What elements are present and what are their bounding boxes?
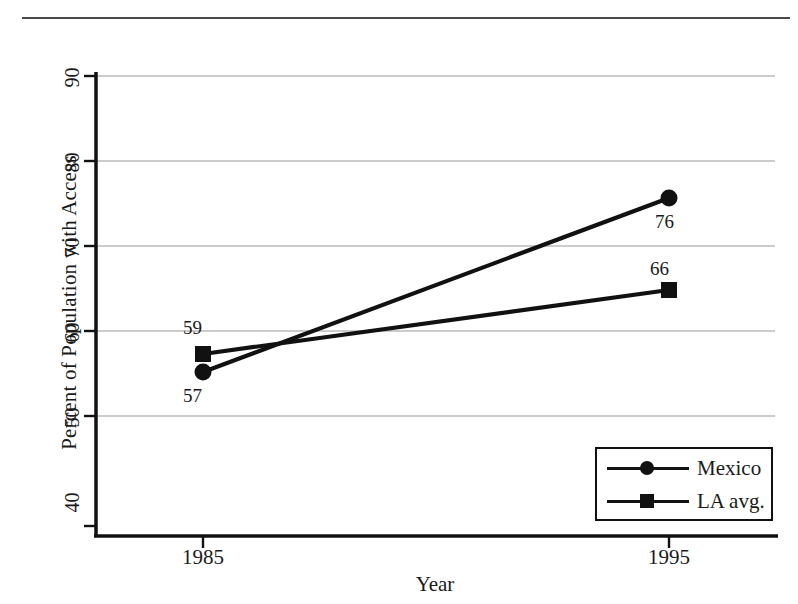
point-label-la-1995: 66 bbox=[650, 258, 669, 280]
chart-legend: Mexico LA avg. bbox=[595, 447, 773, 521]
series-la-avg-line bbox=[203, 290, 669, 354]
point-label-mexico-1985: 57 bbox=[183, 385, 202, 407]
legend-entry-la-avg: LA avg. bbox=[597, 486, 771, 519]
x-tick-label-1985: 1985 bbox=[143, 545, 263, 570]
y-tick-marks bbox=[84, 76, 96, 526]
x-axis-title: Year bbox=[95, 572, 775, 597]
series-mexico-point-1995 bbox=[661, 190, 678, 207]
legend-label-la-avg: LA avg. bbox=[697, 489, 765, 514]
x-tick-marks bbox=[203, 536, 669, 548]
series-la-avg-point-1995 bbox=[661, 282, 677, 298]
x-tick-label-1995: 1995 bbox=[609, 545, 729, 570]
chart-figure: Percent of Population with Access 90 80 … bbox=[0, 0, 798, 604]
legend-label-mexico: Mexico bbox=[697, 456, 761, 481]
point-label-mexico-1995: 76 bbox=[655, 211, 674, 233]
gridlines bbox=[95, 76, 775, 416]
point-label-la-1985: 59 bbox=[183, 317, 202, 339]
square-marker-icon bbox=[640, 494, 654, 508]
legend-swatch-la-avg bbox=[607, 500, 689, 503]
series-la-avg-point-1985 bbox=[195, 346, 211, 362]
series-mexico-point-1985 bbox=[195, 364, 212, 381]
legend-swatch-mexico bbox=[607, 467, 689, 470]
legend-entry-mexico: Mexico bbox=[597, 453, 771, 486]
series-mexico bbox=[195, 190, 678, 381]
circle-marker-icon bbox=[640, 461, 654, 475]
